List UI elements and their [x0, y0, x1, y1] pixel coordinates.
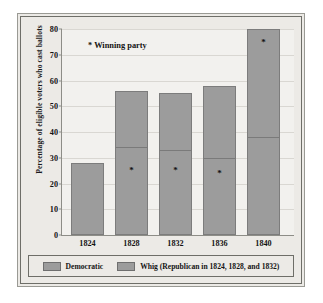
figure-frame: Percentage of eligible voters who cast b…: [17, 13, 305, 287]
ytick-mark-50: [59, 106, 62, 107]
winner-star-1828: *: [129, 166, 134, 175]
bar-segment-democratic-1836[interactable]: *: [203, 158, 236, 235]
ytick-label-70: 70: [50, 50, 58, 59]
ytick-label-80: 80: [50, 25, 58, 34]
plot-area: 80 70 60 50 40 30 20 10 0: [61, 29, 294, 236]
ytick-mark-30: [59, 157, 62, 158]
bar-segment-democratic-1840[interactable]: [247, 137, 280, 235]
ytick-mark-60: [59, 80, 62, 81]
bar-segment-whig-1840[interactable]: *: [247, 29, 280, 137]
ytick-mark-70: [59, 54, 62, 55]
ytick-label-30: 30: [50, 153, 58, 162]
ytick-mark-40: [59, 132, 62, 133]
xtick-label-1840: 1840: [255, 239, 271, 248]
ytick-mark-80: [59, 29, 62, 30]
xtick-label-1836: 1836: [211, 239, 227, 248]
bar-segment-whig-1836[interactable]: [203, 86, 236, 158]
bar-group-1828[interactable]: * 1828: [115, 91, 148, 235]
bar-group-1824[interactable]: 1824: [71, 163, 104, 235]
bar-segment-democratic-1832[interactable]: *: [159, 150, 192, 235]
ytick-mark-0: [59, 235, 62, 236]
bar-segment-democratic-1824[interactable]: [71, 163, 104, 235]
winner-star-1832: *: [173, 166, 178, 175]
ytick-mark-10: [59, 209, 62, 210]
legend-entry-whig[interactable]: Whig (Republican in 1824, 1828, and 1832…: [117, 262, 279, 271]
ytick-label-50: 50: [50, 102, 58, 111]
winner-star-1840: *: [261, 38, 266, 47]
bar-group-1840[interactable]: * 1840: [247, 29, 280, 235]
bar-group-1832[interactable]: * 1832: [159, 93, 192, 235]
winner-star-1836: *: [217, 169, 222, 178]
legend-swatch-whig: [117, 262, 135, 271]
legend-label-whig: Whig (Republican in 1824, 1828, and 1832…: [140, 262, 279, 271]
winning-party-annotation: * Winning party: [88, 41, 147, 50]
legend-swatch-democratic: [43, 262, 61, 271]
legend-label-democratic: Democratic: [66, 262, 104, 271]
xtick-label-1828: 1828: [123, 239, 139, 248]
ytick-mark-20: [59, 183, 62, 184]
ytick-label-10: 10: [50, 205, 58, 214]
y-axis-title: Percentage of eligible voters who cast b…: [35, 10, 44, 190]
ytick-label-60: 60: [50, 76, 58, 85]
xtick-label-1832: 1832: [167, 239, 183, 248]
bar-segment-democratic-1828[interactable]: *: [115, 147, 148, 235]
ytick-label-40: 40: [50, 128, 58, 137]
figure-inner-border: Percentage of eligible voters who cast b…: [20, 16, 302, 284]
bar-group-1836[interactable]: * 1836: [203, 86, 236, 235]
ytick-label-0: 0: [54, 231, 58, 240]
legend-entry-democratic[interactable]: Democratic: [43, 262, 104, 271]
ytick-label-20: 20: [50, 179, 58, 188]
bar-segment-whig-1828[interactable]: [115, 91, 148, 148]
chart-legend: Democratic Whig (Republican in 1824, 182…: [28, 255, 294, 277]
xtick-label-1824: 1824: [79, 239, 95, 248]
bar-segment-whig-1832[interactable]: [159, 93, 192, 150]
